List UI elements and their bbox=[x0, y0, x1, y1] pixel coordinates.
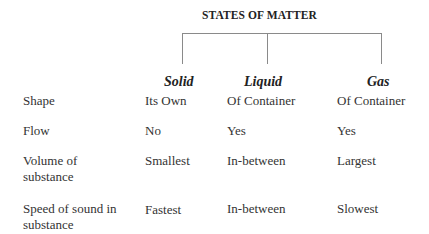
cell-solid-flow: No bbox=[145, 123, 161, 139]
row-label-speed-line2: substance bbox=[23, 217, 117, 233]
cell-solid-volume: Smallest bbox=[145, 153, 190, 169]
cell-liquid-volume: In-between bbox=[227, 153, 285, 169]
row-label-shape: Shape bbox=[23, 93, 55, 109]
row-label-speed-line1: Speed of sound in bbox=[23, 201, 117, 217]
cell-gas-volume: Largest bbox=[337, 153, 376, 169]
column-header-gas: Gas bbox=[367, 74, 390, 90]
row-label-volume-line1: Volume of bbox=[23, 153, 77, 169]
bracket-line-solid bbox=[182, 33, 183, 64]
bracket-line-liquid bbox=[267, 33, 268, 64]
column-header-solid: Solid bbox=[164, 74, 194, 90]
bracket-horizontal-line bbox=[182, 33, 382, 34]
cell-gas-speed: Slowest bbox=[337, 201, 378, 217]
row-label-volume-line2: substance bbox=[23, 169, 77, 185]
cell-gas-shape: Of Container bbox=[337, 93, 405, 109]
cell-gas-flow: Yes bbox=[337, 123, 356, 139]
cell-liquid-flow: Yes bbox=[227, 123, 246, 139]
cell-solid-speed: Fastest bbox=[145, 202, 181, 218]
column-header-liquid: Liquid bbox=[244, 74, 282, 90]
row-label-volume: Volume of substance bbox=[23, 153, 77, 185]
row-label-flow: Flow bbox=[23, 123, 50, 139]
row-label-speed: Speed of sound in substance bbox=[23, 201, 117, 233]
diagram-title: STATES OF MATTER bbox=[202, 9, 317, 21]
cell-liquid-speed: In-between bbox=[227, 201, 285, 217]
bracket-line-gas bbox=[381, 33, 382, 64]
cell-liquid-shape: Of Container bbox=[227, 93, 295, 109]
cell-solid-shape: Its Own bbox=[145, 93, 187, 109]
